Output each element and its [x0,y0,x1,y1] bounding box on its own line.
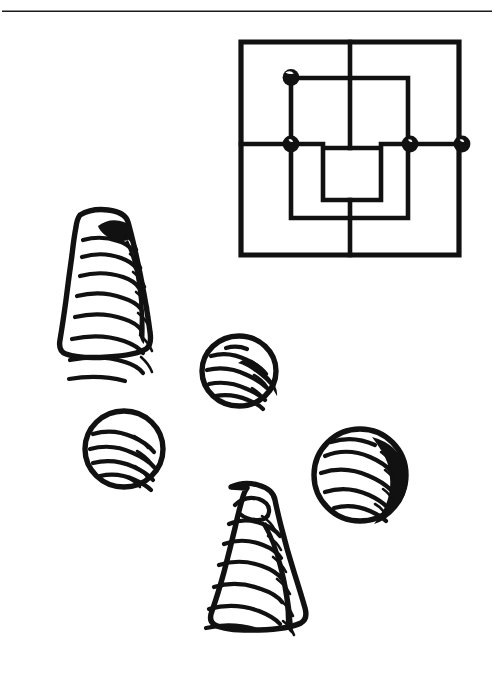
disc-piece-right-lower[interactable] [314,429,407,524]
illustration-canvas [0,0,494,680]
disc-piece-center-upper[interactable] [202,336,277,409]
figure-root: Line drawing of a nine men's morris (mil… [0,0,494,680]
marker-middle-right-mid[interactable] [402,136,419,153]
marker-middle-left-mid[interactable] [283,136,300,153]
marker-middle-top-left[interactable] [283,69,300,86]
disc-piece-left-lower[interactable] [85,411,163,490]
marker-outer-right-mid[interactable] [454,136,471,153]
